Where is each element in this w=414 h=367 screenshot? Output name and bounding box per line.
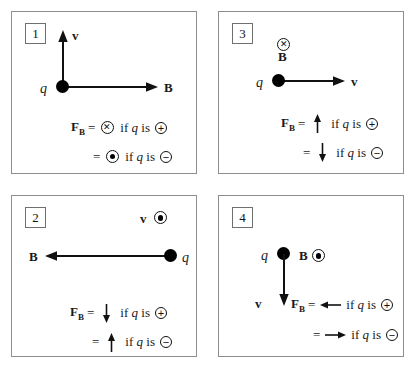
charge-label-4: q xyxy=(261,249,268,263)
force-line-1-positive: FB = ✕ if q is + xyxy=(71,118,172,137)
condition-4a: if q is xyxy=(346,297,376,313)
sign-positive-icon-4: + xyxy=(381,299,393,311)
charge-dot-3 xyxy=(272,74,285,87)
force-symbol-3a: FB xyxy=(281,115,295,133)
force-line-3-positive: FB = if q is + xyxy=(281,114,383,133)
arrow-up-icon-3a xyxy=(309,114,326,133)
charge-dot-2 xyxy=(164,249,177,262)
equals-2b: = xyxy=(92,334,99,350)
field-arrow-1 xyxy=(62,80,158,94)
velocity-label-4: v xyxy=(255,297,262,310)
sign-positive-icon-1: + xyxy=(155,122,167,134)
panel-3: 3 ✕ B v q FB = if q is + xyxy=(218,11,404,174)
sign-negative-icon-4: − xyxy=(386,329,398,341)
magnetic-force-figure: 1 v B q FB = ✕ if q is + = xyxy=(0,0,414,367)
condition-4b: if q is xyxy=(351,327,381,343)
force-line-3-negative: = if q is − xyxy=(281,143,383,162)
condition-2b: if q is xyxy=(125,334,155,350)
velocity-out-of-page-icon-2 xyxy=(154,208,167,226)
velocity-arrow-1 xyxy=(56,30,70,86)
equals-1b: = xyxy=(93,149,100,165)
sign-negative-icon-1: − xyxy=(160,151,172,163)
panel-number-box-3: 3 xyxy=(232,23,253,44)
charge-label-2: q xyxy=(182,251,189,265)
out-of-page-dot-icon xyxy=(104,150,120,163)
force-formula-block-4: FB = if q is + = if q is − xyxy=(291,296,398,345)
equals-4a: = xyxy=(308,297,315,313)
panel-number-4: 4 xyxy=(239,211,246,224)
field-label-3: B xyxy=(278,50,287,63)
sign-positive-icon-2: + xyxy=(155,307,167,319)
sign-negative-icon-3: − xyxy=(371,147,383,159)
condition-1b: if q is xyxy=(125,149,155,165)
force-symbol-4a: FB xyxy=(291,296,305,314)
force-line-2-positive: FB = if q is + xyxy=(70,304,172,323)
equals-2a: = xyxy=(87,305,94,321)
equals-4b: = xyxy=(313,327,320,343)
velocity-arrow-4 xyxy=(277,254,291,306)
sign-positive-icon-3: + xyxy=(366,118,378,130)
field-arrow-2 xyxy=(45,249,169,263)
sign-negative-icon-2: − xyxy=(160,336,172,348)
charge-label-3: q xyxy=(256,76,263,90)
velocity-label-2: v xyxy=(140,212,147,225)
arrow-down-icon-2a xyxy=(98,304,115,323)
equals-1a: = xyxy=(88,120,95,136)
equals-3a: = xyxy=(298,116,305,132)
force-line-4-negative: = if q is − xyxy=(291,326,398,345)
force-line-2-negative: = if q is − xyxy=(70,333,172,352)
velocity-arrow-3 xyxy=(279,74,345,88)
force-symbol-1a: FB xyxy=(71,119,85,137)
panel-number-box-2: 2 xyxy=(25,207,46,228)
condition-1a: if q is xyxy=(120,120,150,136)
arrow-down-icon-3b xyxy=(314,143,331,162)
panel-2: 2 v B q FB = if q is + xyxy=(11,195,197,358)
panel-number-2: 2 xyxy=(32,211,39,224)
condition-3b: if q is xyxy=(336,145,366,161)
panel-number-box-1: 1 xyxy=(25,23,46,44)
field-label-4: B xyxy=(299,249,308,262)
into-page-cross-icon: ✕ xyxy=(99,121,115,134)
force-line-1-negative: = if q is − xyxy=(71,147,172,166)
force-formula-block-3: FB = if q is + = if q is − xyxy=(281,114,383,162)
field-label-2: B xyxy=(29,250,38,263)
condition-3a: if q is xyxy=(331,116,361,132)
velocity-label-1: v xyxy=(72,29,79,42)
condition-2a: if q is xyxy=(120,305,150,321)
velocity-label-3: v xyxy=(351,75,358,88)
field-label-1: B xyxy=(164,81,173,94)
panel-1: 1 v B q FB = ✕ if q is + = xyxy=(11,11,197,174)
panel-number-1: 1 xyxy=(32,27,39,40)
force-symbol-2a: FB xyxy=(70,304,84,322)
force-line-4-positive: FB = if q is + xyxy=(291,296,398,315)
force-formula-block-2: FB = if q is + = if q is − xyxy=(70,304,172,352)
field-out-of-page-icon-4 xyxy=(312,246,325,264)
charge-label-1: q xyxy=(40,82,47,96)
arrow-left-icon-4a xyxy=(319,300,341,310)
panel-4: 4 q B v FB = if q is + xyxy=(218,195,404,358)
charge-dot-1 xyxy=(56,80,69,93)
panel-number-3: 3 xyxy=(239,27,246,40)
force-formula-block-1: FB = ✕ if q is + = if q is − xyxy=(71,118,172,166)
arrow-right-icon-4b xyxy=(324,330,346,340)
panel-number-box-4: 4 xyxy=(232,207,253,228)
equals-3b: = xyxy=(303,145,310,161)
arrow-up-icon-2b xyxy=(103,333,120,352)
